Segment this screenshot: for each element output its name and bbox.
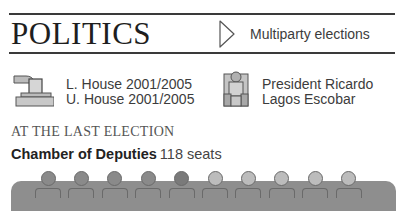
chamber-summary: Chamber of Deputies118 seats xyxy=(11,146,222,162)
header-top-rule xyxy=(9,13,395,15)
seat-figure-body-icon xyxy=(336,188,362,198)
upper-house-election: U. House 2001/2005 xyxy=(66,92,194,107)
leader-line-2: Lagos Escobar xyxy=(262,92,373,107)
seat-figure-body-icon xyxy=(202,188,228,198)
chamber-seat-count: 118 seats xyxy=(160,146,222,162)
category-tag: Multiparty elections xyxy=(218,19,370,49)
seat-figure-head-icon xyxy=(208,171,223,186)
lower-house-election: L. House 2001/2005 xyxy=(66,77,194,92)
category-tag-label: Multiparty elections xyxy=(250,26,370,42)
seat-figure-head-icon xyxy=(141,171,156,186)
seat-figure-body-icon xyxy=(102,188,128,198)
elections-info: L. House 2001/2005 U. House 2001/2005 xyxy=(66,77,194,107)
ballot-box-icon xyxy=(12,73,54,111)
seat-figure-head-icon xyxy=(74,171,89,186)
seat-figure-head-icon xyxy=(341,171,356,186)
seat-figure-body-icon xyxy=(235,188,261,198)
seat-figure-body-icon xyxy=(68,188,94,198)
triangle-right-outline-icon xyxy=(218,19,236,49)
last-election-heading: AT THE LAST ELECTION xyxy=(11,124,175,140)
seat-figure-head-icon xyxy=(241,171,256,186)
chamber-name: Chamber of Deputies xyxy=(11,146,157,162)
seat-figure-body-icon xyxy=(169,188,195,198)
throne-icon xyxy=(222,70,250,112)
page-title: POLITICS xyxy=(11,17,151,51)
seat-figure-body-icon xyxy=(269,188,295,198)
seat-figure-body-icon xyxy=(302,188,328,198)
header-bottom-rule xyxy=(9,52,395,54)
leader-line-1: President Ricardo xyxy=(262,77,373,92)
seat-figure-head-icon xyxy=(174,171,189,186)
seat-figure-head-icon xyxy=(308,171,323,186)
leader-info: President Ricardo Lagos Escobar xyxy=(262,77,373,107)
seat-figure-body-icon xyxy=(35,188,61,198)
seat-figure-head-icon xyxy=(41,171,56,186)
seat-figure-body-icon xyxy=(135,188,161,198)
